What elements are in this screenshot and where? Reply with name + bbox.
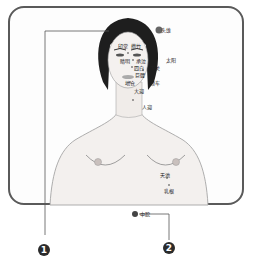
label-touwei: 头维 xyxy=(161,27,171,33)
label-sibai: 四白 xyxy=(134,65,144,71)
label-chengqi: 承泣 xyxy=(136,58,146,64)
label-cuanzhu: 攒竹 xyxy=(131,43,141,49)
label-zhongwan: 中脘 xyxy=(140,211,150,217)
label-jingming: 睛明 xyxy=(120,58,130,64)
label-rugen: 乳根 xyxy=(164,188,174,194)
label-yintang: 印堂 xyxy=(118,43,128,49)
label-daying: 大迎 xyxy=(134,88,144,94)
label-dicang: 地仓 xyxy=(125,80,135,86)
label-jiache: 颊车 xyxy=(150,80,160,86)
label-juliao: 巨髎 xyxy=(135,72,145,78)
label-renying: 人迎 xyxy=(142,104,152,110)
callout-badge-1: 1 xyxy=(38,244,50,256)
callout-badge-2: 2 xyxy=(163,242,175,254)
label-taiyang: 太阳 xyxy=(166,57,176,63)
body-illustration xyxy=(0,0,256,259)
label-tianchi: 天池 xyxy=(160,172,170,178)
label-xiaguan: 下关 xyxy=(150,65,160,71)
